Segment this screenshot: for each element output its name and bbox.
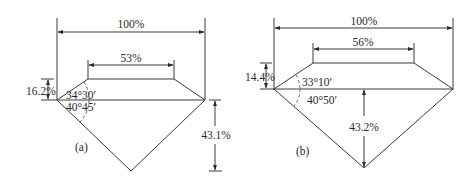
pavilion-angle-label-a: 40°45′ — [66, 101, 96, 113]
crown-angle-label-b: 33°10′ — [302, 76, 332, 88]
crown-angle-label-a: 34°30′ — [66, 89, 96, 101]
total-width-label-a: 100% — [118, 18, 145, 30]
diagram-label-b: (b) — [296, 145, 310, 158]
diagram-label-a: (a) — [75, 141, 88, 154]
diagram-b: 100% 56% 33°10′ 40°50′ 14.4% 43.2% (b) — [245, 15, 453, 168]
crown-height-label-b: 14.4% — [245, 71, 275, 83]
pavilion-depth-label-a: 43.1% — [201, 129, 231, 141]
crown-angle-arc-b — [296, 75, 300, 89]
table-width-label-b: 56% — [352, 36, 374, 48]
pavilion-depth-label-b: 43.2% — [349, 121, 379, 133]
crown-height-label-a: 16.2% — [26, 85, 56, 97]
diamond-proportions-diagram: 100% 53% 34°30′ 40°45′ 16.2% 43.1% (a) 1… — [0, 0, 474, 188]
table-width-label-a: 53% — [120, 52, 142, 64]
total-width-label-b: 100% — [351, 15, 378, 27]
pavilion-angle-label-b: 40°50′ — [307, 94, 337, 106]
diagram-a: 100% 53% 34°30′ 40°45′ 16.2% 43.1% (a) — [26, 18, 231, 171]
pavilion-angle-arc-b — [294, 89, 300, 106]
